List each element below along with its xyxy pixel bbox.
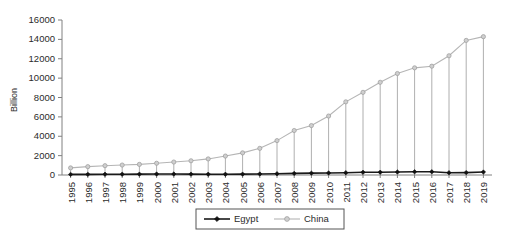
y-tick-label: 4000	[34, 130, 55, 141]
x-tick-label: 2014	[392, 182, 403, 203]
data-point-marker	[464, 170, 468, 174]
data-point-marker	[309, 123, 313, 127]
data-point-marker	[412, 170, 416, 174]
legend-label: Egypt	[234, 213, 259, 224]
data-point-marker	[413, 66, 417, 70]
data-point-marker	[103, 172, 107, 176]
data-point-marker	[275, 139, 279, 143]
x-tick-label: 2001	[169, 182, 180, 203]
chart-container: Billion 02000400060008000100001200014000…	[0, 0, 505, 241]
data-point-marker	[154, 172, 158, 176]
legend-label: China	[304, 213, 330, 224]
data-point-marker	[361, 90, 365, 94]
y-tick-label: 10000	[29, 72, 55, 83]
y-axis-title: Billion	[9, 88, 19, 112]
data-point-marker	[327, 114, 331, 118]
data-point-marker	[69, 166, 73, 170]
x-tick-label: 2012	[358, 182, 369, 203]
data-point-marker	[258, 146, 262, 150]
x-tick-label: 2010	[324, 182, 335, 203]
x-tick-label: 1998	[117, 182, 128, 203]
x-tick-label: 2005	[238, 182, 249, 203]
x-axis-ticks: 1995199619971998199920002001200220032004…	[66, 175, 490, 203]
x-tick-label: 1999	[134, 182, 145, 203]
x-tick-label: 2006	[255, 182, 266, 203]
x-tick-label: 2000	[152, 182, 163, 203]
x-tick-label: 2004	[220, 182, 231, 203]
data-point-marker	[86, 172, 90, 176]
data-point-marker	[292, 128, 296, 132]
x-tick-label: 1995	[66, 182, 77, 203]
data-point-marker	[189, 159, 193, 163]
data-point-marker	[120, 163, 124, 167]
x-tick-label: 2013	[375, 182, 386, 203]
data-point-marker	[223, 172, 227, 176]
data-point-marker	[447, 171, 451, 175]
x-tick-label: 2009	[306, 182, 317, 203]
data-point-marker	[172, 172, 176, 176]
data-point-marker	[378, 80, 382, 84]
x-tick-label: 2011	[341, 182, 352, 202]
legend-marker-swatch	[285, 217, 290, 222]
y-tick-label: 14000	[29, 33, 55, 44]
x-tick-label: 1996	[83, 182, 94, 203]
y-tick-label: 6000	[34, 111, 55, 122]
y-axis-ticks: 0200040006000800010000120001400016000	[29, 14, 62, 180]
data-point-marker	[464, 38, 468, 42]
data-point-marker	[68, 172, 72, 176]
x-tick-label: 2008	[289, 182, 300, 203]
y-axis-title-text: Billion	[9, 88, 19, 112]
data-point-marker	[241, 151, 245, 155]
y-tick-label: 2000	[34, 150, 55, 161]
chart-legend: EgyptChina	[196, 209, 344, 229]
x-tick-label: 2002	[186, 182, 197, 203]
x-tick-label: 2016	[427, 182, 438, 203]
data-point-marker	[395, 71, 399, 75]
x-tick-label: 2019	[478, 182, 489, 203]
data-point-marker	[430, 64, 434, 68]
data-point-marker	[206, 157, 210, 161]
x-tick-label: 2003	[203, 182, 214, 203]
data-point-marker	[223, 154, 227, 158]
x-tick-label: 2007	[272, 182, 283, 203]
data-point-marker	[189, 172, 193, 176]
y-tick-label: 0	[50, 169, 55, 180]
data-point-marker	[137, 162, 141, 166]
data-point-marker	[344, 171, 348, 175]
data-point-marker	[378, 170, 382, 174]
data-point-marker	[326, 171, 330, 175]
data-point-marker	[172, 160, 176, 164]
data-point-marker	[120, 172, 124, 176]
data-point-marker	[86, 165, 90, 169]
data-point-marker	[481, 170, 485, 174]
x-tick-label: 2015	[410, 182, 421, 203]
data-point-marker	[395, 170, 399, 174]
line-chart: Billion 02000400060008000100001200014000…	[0, 0, 505, 241]
x-tick-label: 1997	[100, 182, 111, 203]
data-point-marker	[344, 100, 348, 104]
data-point-marker	[137, 172, 141, 176]
y-tick-label: 16000	[29, 14, 55, 25]
data-point-marker	[103, 164, 107, 168]
data-point-marker	[206, 172, 210, 176]
data-point-marker	[240, 172, 244, 176]
x-tick-label: 2017	[444, 182, 455, 203]
data-point-marker	[155, 161, 159, 165]
data-point-marker	[481, 35, 485, 39]
x-tick-label: 2018	[461, 182, 472, 203]
data-point-marker	[361, 170, 365, 174]
y-tick-label: 12000	[29, 53, 55, 64]
drop-lines	[71, 37, 484, 175]
data-point-marker	[447, 54, 451, 58]
y-tick-label: 8000	[34, 92, 55, 103]
data-point-marker	[430, 170, 434, 174]
